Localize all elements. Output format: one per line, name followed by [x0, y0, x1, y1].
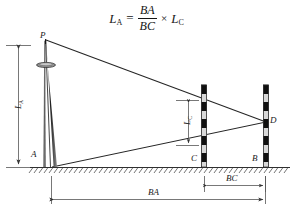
staff-near-C: [202, 85, 207, 167]
label-point-C: C: [191, 154, 197, 163]
label-point-P: P: [40, 31, 46, 40]
tower-mast: [37, 39, 58, 167]
label-dimension-tower-height: LA: [14, 89, 23, 121]
staff-far-B: [263, 85, 268, 167]
point-D-marker: [264, 121, 266, 123]
label-dimension-BC: BC: [226, 174, 238, 183]
label-point-B: B: [252, 154, 258, 163]
label-point-D: D: [270, 116, 277, 125]
label-dimension-BA: BA: [148, 188, 159, 197]
label-dimension-staff-reading: LC: [183, 106, 192, 136]
sight-line-lower: [52, 122, 266, 167]
ground-line: [29, 168, 290, 174]
diagram-canvas: LA = BA BC × LC: [0, 0, 293, 216]
sight-line-upper: [46, 40, 266, 122]
label-point-A: A: [31, 150, 37, 159]
